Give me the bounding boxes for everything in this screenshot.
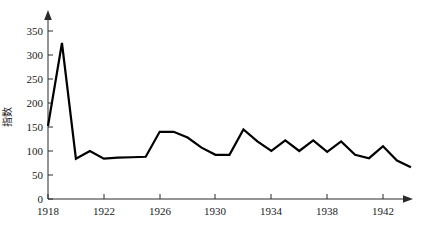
y-tick-label: 250 — [27, 73, 44, 85]
y-tick-label: 300 — [27, 49, 44, 61]
line-chart: 指数 0 50 100 150 200 2 — [0, 0, 424, 240]
y-tick-label: 350 — [27, 25, 44, 37]
x-tick-label: 1938 — [316, 205, 339, 217]
x-axis-tick-labels: 1918 1922 1926 1930 1934 1938 1942 — [37, 205, 394, 217]
x-tick-label: 1934 — [260, 205, 283, 217]
x-tick-label: 1926 — [149, 205, 172, 217]
y-tick-label: 0 — [38, 193, 44, 205]
x-tick-label: 1942 — [372, 205, 394, 217]
y-axis-tick-labels: 0 50 100 150 200 250 300 350 — [27, 25, 44, 205]
x-tick-label: 1930 — [204, 205, 227, 217]
x-axis-arrow-icon — [403, 195, 413, 203]
y-axis-title: 指数 — [1, 107, 13, 127]
y-tick-label: 200 — [27, 97, 44, 109]
y-tick-label: 100 — [27, 145, 44, 157]
x-axis-ticks — [48, 194, 383, 199]
x-tick-label: 1922 — [93, 205, 115, 217]
x-tick-label: 1918 — [37, 205, 60, 217]
x-axis — [48, 195, 413, 203]
y-tick-label: 150 — [27, 121, 44, 133]
y-axis-arrow-icon — [44, 10, 52, 20]
y-tick-label: 50 — [32, 169, 44, 181]
chart-figure: 指数 0 50 100 150 200 2 — [0, 0, 424, 240]
data-series-line — [48, 43, 411, 167]
